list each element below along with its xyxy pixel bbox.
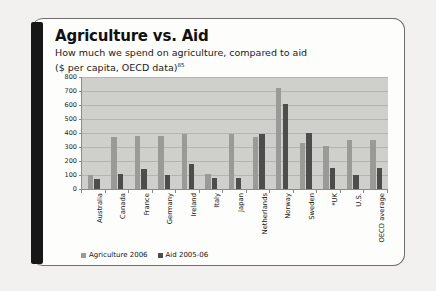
x-axis-tick-label: *UK [331,193,339,206]
bar [158,136,163,189]
x-axis-tick-label: Italy [213,193,221,208]
bar [189,164,194,189]
x-axis-tick-label: Canada [119,193,127,219]
page-title: Agriculture vs. Aid [55,27,209,45]
bar [330,168,335,189]
y-axis-tick-label: 400 [65,129,77,137]
y-axis-tick-label: 0 [73,185,77,193]
x-axis-labels: AustraliaCanadaFranceGermanyIrelandItaly… [81,193,387,247]
subtitle-line-1: How much we spend on agriculture, compar… [55,47,307,58]
y-axis-tick-label: 800 [65,73,77,81]
legend-swatch-agriculture-icon [81,253,86,258]
legend-label-agriculture: Agriculture 2006 [89,251,148,259]
bar [306,133,311,189]
plot-area [81,77,388,190]
bar-group [323,77,335,189]
bar [111,137,116,189]
footnote-marker: 85 [177,62,184,68]
y-axis-tick-label: 600 [65,101,77,109]
bar [182,134,187,189]
bar-group [300,77,312,189]
chart-card-content: Agriculture vs. Aid How much we spend on… [43,18,405,266]
x-axis-tick-label: U.S. [355,193,363,207]
legend-label-aid: Aid 2005-06 [166,251,209,259]
bar-group [88,77,100,189]
bar [276,88,281,189]
x-axis-tick-label: Norway [284,193,292,219]
bar [118,174,123,189]
bar [347,140,352,189]
x-axis-tick-label: France [143,193,151,216]
bar [253,137,258,189]
bar [353,175,358,189]
bar [377,168,382,189]
bar [283,104,288,189]
bar-series-container [82,77,388,189]
legend-item-agriculture: Agriculture 2006 [81,251,148,259]
bar-group [158,77,170,189]
y-axis-tick-label: 500 [65,115,77,123]
y-axis: 0100200300400500600700800 [55,75,79,191]
bar-group [135,77,147,189]
bar [370,140,375,189]
subtitle-line-2: ($ per capita, OECD data) [55,62,177,73]
chart-legend: Agriculture 2006 Aid 2005-06 [81,251,214,259]
bar-group [370,77,382,189]
bar-group [276,77,288,189]
x-axis-tick-label: Netherlands [261,193,269,234]
bar [205,174,210,189]
bar [135,136,140,189]
bar [259,134,264,189]
bar [165,175,170,189]
bar [229,134,234,189]
bar-chart: 0100200300400500600700800 AustraliaCanad… [55,75,395,255]
chart-subtitle: How much we spend on agriculture, compar… [55,47,395,74]
legend-item-aid: Aid 2005-06 [158,251,209,259]
x-axis-tick-label: Ireland [190,193,198,217]
y-axis-tick-label: 300 [65,143,77,151]
bar [88,175,93,189]
bar-group [229,77,241,189]
y-axis-tick-label: 700 [65,87,77,95]
bar [141,169,146,189]
x-axis-tick-label: OECD average [378,193,386,243]
x-axis-tick-mark [387,189,388,193]
screenshot-root: Agriculture vs. Aid How much we spend on… [0,0,436,291]
x-axis-tick-label: Japan [237,193,245,212]
x-axis-tick-label: Australia [96,193,104,223]
x-axis-tick-label: Germany [166,193,174,224]
bar-group [347,77,359,189]
bar [300,143,305,189]
bar-group [253,77,265,189]
x-axis-tick-label: Sweden [308,193,316,220]
y-axis-tick-label: 200 [65,157,77,165]
card-spine [31,22,43,264]
bar-group [205,77,217,189]
bar-group [111,77,123,189]
y-axis-tick-label: 100 [65,171,77,179]
bar [323,146,328,189]
bar-group [182,77,194,189]
bar [236,178,241,189]
legend-swatch-aid-icon [158,253,163,258]
bar [94,179,99,189]
bar [212,178,217,189]
